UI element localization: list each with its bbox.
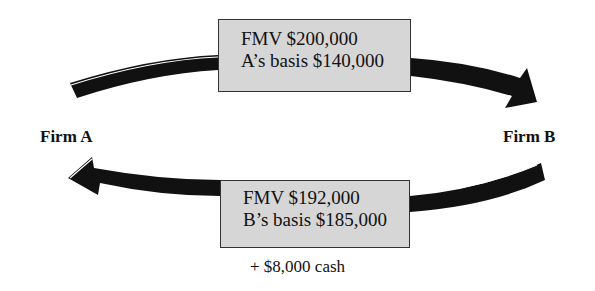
- basis-b: B’s basis $185,000: [243, 209, 409, 231]
- transfer-box-b-to-a: FMV $192,000 B’s basis $185,000: [220, 180, 410, 248]
- transfer-box-a-to-b: FMV $200,000 A’s basis $140,000: [218, 19, 411, 92]
- firm-a-label: Firm A: [40, 127, 92, 147]
- firm-b-label: Firm B: [503, 127, 555, 147]
- basis-a: A’s basis $140,000: [241, 50, 410, 72]
- fmv-a: FMV $200,000: [241, 28, 410, 50]
- fmv-b: FMV $192,000: [243, 187, 409, 209]
- cash-boot-label: + $8,000 cash: [250, 257, 345, 277]
